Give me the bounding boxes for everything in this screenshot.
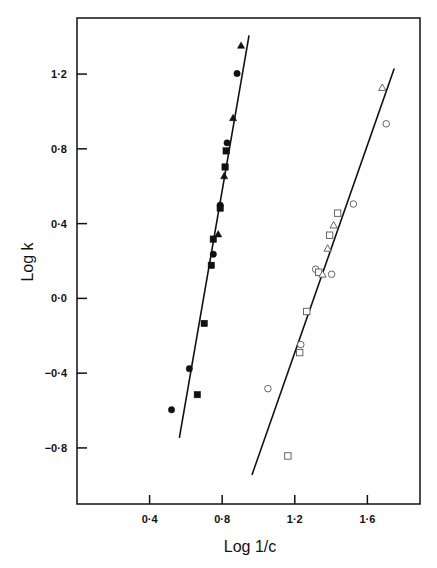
square-marker [304, 308, 310, 314]
x-tick-label: 1·6 [359, 513, 375, 525]
circle-marker [297, 341, 304, 348]
circle-marker [224, 140, 230, 146]
square-marker [326, 232, 332, 238]
x-tick-label: 0·8 [214, 513, 230, 525]
x-axis-title: Log 1/c [224, 538, 276, 555]
square-marker [222, 164, 228, 170]
y-tick-label: 0·0 [51, 292, 67, 304]
square-marker [201, 320, 207, 326]
y-axis-title: Log k [19, 241, 36, 281]
circle-marker [328, 271, 335, 278]
triangle-marker [330, 222, 337, 228]
triangle-marker [324, 245, 331, 251]
square-marker [208, 262, 214, 268]
triangle-marker [237, 42, 244, 48]
square-marker [334, 210, 340, 216]
y-tick-label: 0·8 [51, 143, 67, 155]
square-marker [296, 349, 302, 355]
square-marker [210, 236, 216, 242]
triangle-marker [221, 172, 228, 178]
y-tick-label: −0·8 [45, 442, 67, 454]
x-tick-label: 1·2 [287, 513, 303, 525]
circle-marker [234, 70, 240, 76]
circle-marker [210, 251, 216, 257]
circle-marker [383, 120, 390, 127]
triangle-marker [379, 84, 386, 90]
y-tick-label: 1·2 [51, 68, 67, 80]
x-axis-ticks: 0·40·81·21·6 [142, 495, 376, 525]
circle-marker [168, 407, 174, 413]
plot-frame [77, 18, 420, 504]
circle-marker [265, 385, 272, 392]
y-tick-label: −0·4 [45, 367, 68, 379]
square-marker [285, 453, 291, 459]
y-axis-ticks: 1·20·80·40·0−0·4−0·8 [45, 68, 87, 454]
circle-marker [186, 365, 192, 371]
square-marker [194, 391, 200, 397]
chart: 0·40·81·21·6 1·20·80·40·0−0·4−0·8 Log 1/… [0, 0, 437, 568]
x-tick-label: 0·4 [142, 513, 159, 525]
circle-marker [350, 201, 357, 208]
y-tick-label: 0·4 [51, 218, 68, 230]
square-marker [217, 205, 223, 211]
square-marker [223, 148, 229, 154]
